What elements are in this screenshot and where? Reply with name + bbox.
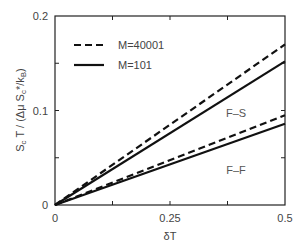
chart: 0 0.1 0.2 0 0.25 0.5 δT Sc T / (Δμ Sc*/k…: [0, 0, 307, 251]
legend-label-m101: M=101: [118, 59, 152, 71]
legend-label-m40001: M=40001: [118, 39, 164, 51]
annotation-fs: F–S: [226, 107, 246, 119]
legend: M=40001 M=101: [74, 39, 164, 71]
y-tick-label-0.2: 0.2: [33, 10, 48, 22]
x-tick-label-0.25: 0.25: [159, 212, 180, 224]
line-m40001-fs: [55, 44, 285, 205]
y-tick-label-0.1: 0.1: [33, 105, 48, 117]
line-m101-fs: [55, 61, 285, 205]
x-axis-label: δT: [164, 230, 177, 242]
line-m40001-ff: [55, 115, 285, 205]
series-lines: [55, 44, 285, 205]
x-tick-label-0.5: 0.5: [277, 212, 292, 224]
y-axis-label: Sc T / (Δμ Sc*/kB): [14, 68, 28, 152]
y-tick-label-0: 0: [42, 199, 48, 211]
annotation-ff: F–F: [226, 164, 246, 176]
x-tick-label-0: 0: [52, 212, 58, 224]
y-ticks: [55, 63, 285, 158]
line-m101-ff: [55, 124, 285, 205]
